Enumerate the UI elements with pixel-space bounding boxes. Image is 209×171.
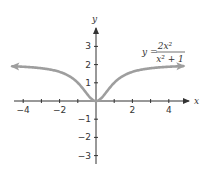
svg-text:−2: −2 xyxy=(53,105,66,115)
y-axis-label: y xyxy=(91,14,98,24)
function-graph: −4−224−3−2−1123 x y y = 2x² x² + 1 xyxy=(0,0,209,171)
svg-text:x² + 1: x² + 1 xyxy=(156,54,184,64)
svg-text:−2: −2 xyxy=(78,132,91,142)
x-axis-label: x xyxy=(194,96,199,106)
svg-text:4: 4 xyxy=(166,105,172,115)
svg-text:−1: −1 xyxy=(78,114,91,124)
svg-text:2: 2 xyxy=(130,105,136,115)
equation-label: y = 2x² x² + 1 xyxy=(141,41,185,64)
svg-text:y =: y = xyxy=(141,47,158,57)
svg-text:−3: −3 xyxy=(78,151,91,161)
svg-text:1: 1 xyxy=(85,78,91,88)
function-curve xyxy=(12,66,183,101)
svg-text:3: 3 xyxy=(85,41,91,51)
svg-text:−4: −4 xyxy=(17,105,31,115)
svg-text:2: 2 xyxy=(85,60,91,70)
svg-text:2x²: 2x² xyxy=(157,41,173,51)
